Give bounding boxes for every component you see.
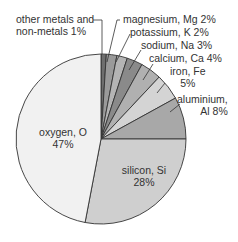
label-oxygen-line1: oxygen, O [33,126,93,138]
label-aluminium-line2: Al 8% [177,105,228,117]
label-aluminium-line1: aluminium, [177,93,228,105]
label-magnesium: magnesium, Mg 2% [123,13,216,25]
label-calcium: calcium, Ca 4% [149,52,222,64]
label-sodium: sodium, Na 3% [141,39,212,51]
label-silicon-line1: silicon, Si [112,164,176,176]
label-oxygen-line2: 47% [33,138,93,150]
label-aluminium: aluminium, Al 8% [177,93,228,117]
label-iron-line2: 5% [170,77,206,89]
label-potassium: potassium, K 2% [130,26,209,38]
label-iron: iron, Fe 5% [170,65,206,89]
label-other: other metals and non-metals 1% [16,13,94,37]
label-silicon: silicon, Si 28% [112,164,176,188]
label-silicon-line2: 28% [112,176,176,188]
label-oxygen: oxygen, O 47% [33,126,93,150]
label-iron-line1: iron, Fe [170,65,206,77]
label-other-line1: other metals and [16,13,94,25]
label-other-line2: non-metals 1% [16,25,94,37]
